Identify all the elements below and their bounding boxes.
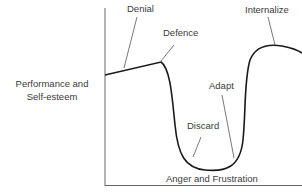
stage-label-discard: Discard xyxy=(187,120,219,131)
performance-curve xyxy=(105,45,302,170)
y-axis-label: Performance and Self-esteem xyxy=(2,77,102,103)
stage-label-adapt: Adapt xyxy=(209,80,234,91)
internalize-leader xyxy=(268,17,275,45)
stage-label-anger-frustration: Anger and Frustration xyxy=(166,173,258,184)
defence-leader xyxy=(161,45,174,61)
stage-label-internalize: Internalize xyxy=(245,4,289,15)
discard-leader xyxy=(193,137,201,157)
stage-label-defence: Defence xyxy=(163,27,198,38)
y-axis-label-line2: Self-esteem xyxy=(2,90,102,103)
denial-leader xyxy=(124,17,137,68)
adapt-leader xyxy=(222,95,234,158)
y-axis-label-line1: Performance and xyxy=(2,77,102,90)
stage-label-denial: Denial xyxy=(127,3,154,14)
